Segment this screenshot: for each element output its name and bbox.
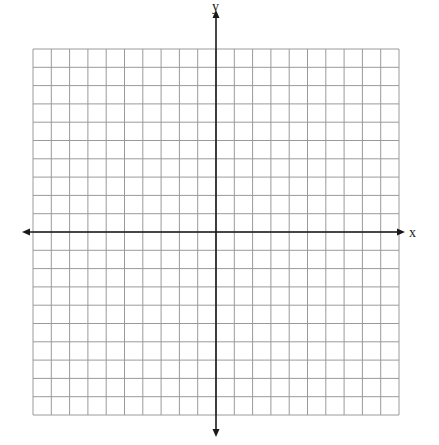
coordinate-plane: x y (0, 0, 439, 445)
x-axis-label: x (409, 225, 416, 240)
x-axis-arrow-left-icon (22, 229, 30, 236)
x-axis-arrow-right-icon (397, 229, 405, 236)
y-axis-arrow-down-icon (213, 429, 220, 437)
axes (22, 10, 405, 437)
y-axis-label: y (212, 0, 219, 14)
